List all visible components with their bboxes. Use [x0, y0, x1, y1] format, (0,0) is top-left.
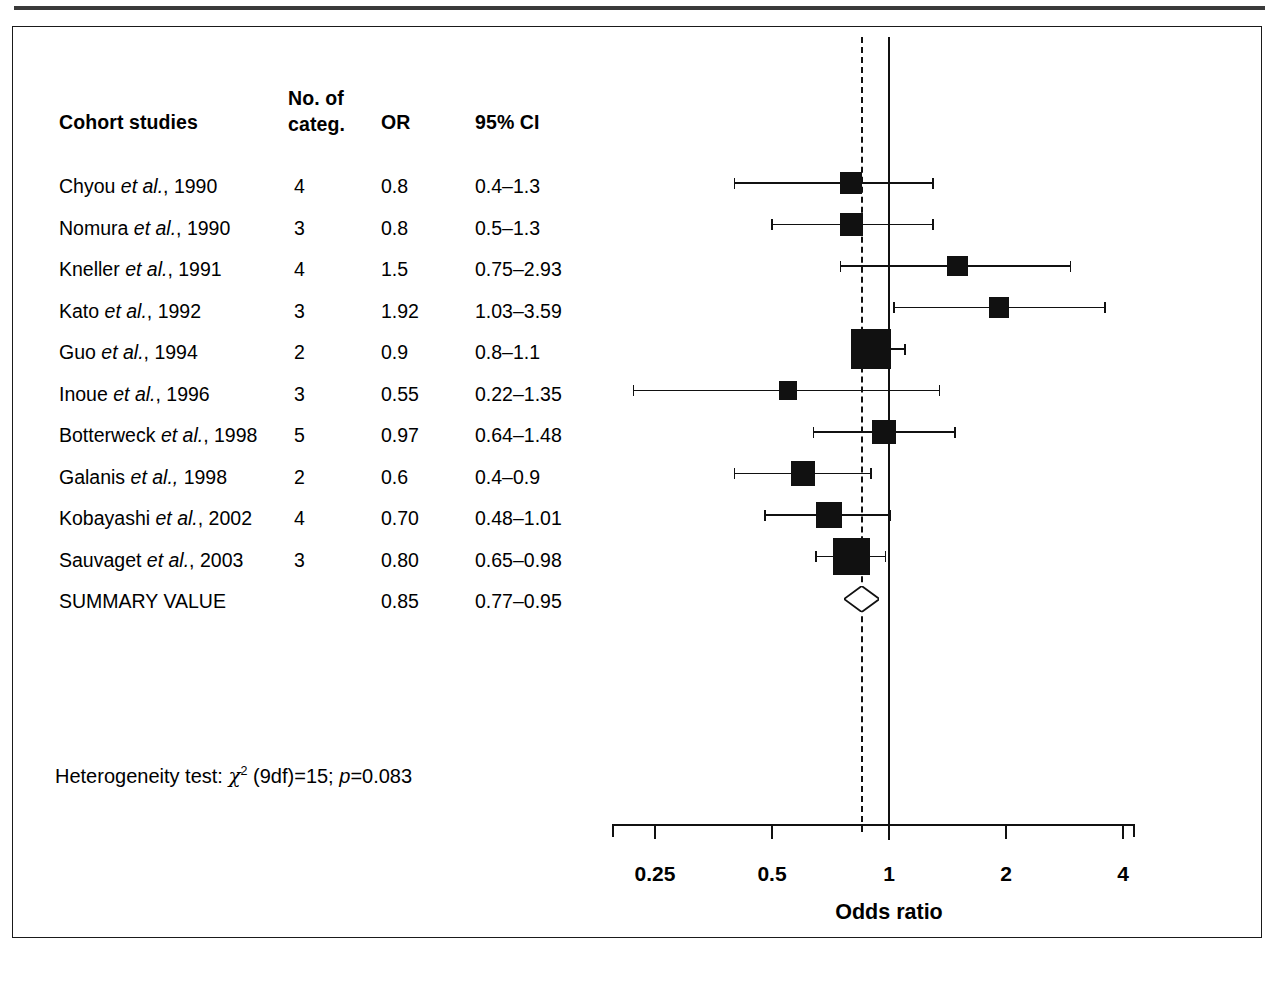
- ci-cap-upper: [885, 551, 887, 562]
- page-top-rule: [14, 6, 1265, 10]
- ci-cap-upper: [890, 510, 892, 521]
- x-axis-line: [613, 824, 1134, 826]
- study-effect-marker: [872, 420, 895, 443]
- ci-cap-lower: [734, 468, 736, 479]
- study-effect-marker: [840, 213, 863, 236]
- ci-cap-lower: [813, 427, 815, 438]
- ci-cap-upper: [870, 468, 872, 479]
- ci-cap-lower: [893, 302, 895, 313]
- study-effect-marker: [816, 502, 841, 527]
- ci-cap-upper: [932, 219, 934, 230]
- x-axis-tick: [1005, 824, 1007, 839]
- x-axis-title: Odds ratio: [835, 900, 943, 925]
- x-axis-right-end: [1133, 824, 1135, 837]
- x-axis-tick: [888, 824, 890, 839]
- x-axis-left-end: [612, 824, 614, 837]
- ci-cap-lower: [734, 178, 736, 189]
- ci-cap-lower: [764, 510, 766, 521]
- x-axis-tick-label: 0.5: [757, 862, 786, 886]
- x-axis-tick: [1122, 824, 1124, 839]
- x-axis-tick-label: 1: [883, 862, 895, 886]
- x-axis-tick: [654, 824, 656, 839]
- ci-cap-lower: [840, 261, 842, 272]
- study-effect-marker: [947, 256, 968, 277]
- ci-cap-upper: [939, 385, 941, 396]
- ci-cap-upper: [1104, 302, 1106, 313]
- ci-cap-lower: [771, 219, 773, 230]
- study-effect-marker: [833, 538, 869, 574]
- ci-cap-upper: [932, 178, 934, 189]
- study-effect-marker: [791, 461, 815, 485]
- summary-diamond: [844, 586, 879, 612]
- ci-cap-upper: [1070, 261, 1072, 272]
- x-axis-tick: [771, 824, 773, 839]
- x-axis-tick-label: 2: [1000, 862, 1012, 886]
- x-axis-tick-label: 4: [1117, 862, 1129, 886]
- forest-plot: 0.250.5124Odds ratio: [13, 27, 1261, 937]
- summary-reference-line: [861, 37, 863, 832]
- ci-cap-lower: [633, 385, 635, 396]
- study-effect-marker: [989, 297, 1010, 318]
- ci-cap-upper: [954, 427, 956, 438]
- confidence-interval-line: [734, 182, 933, 184]
- figure-frame: Cohort studies No. of categ. OR 95% CI C…: [12, 26, 1262, 938]
- study-effect-marker: [851, 329, 891, 369]
- study-effect-marker: [840, 172, 862, 194]
- figure-page: Cohort studies No. of categ. OR 95% CI C…: [0, 0, 1279, 997]
- x-axis-tick-label: 0.25: [635, 862, 676, 886]
- study-effect-marker: [779, 381, 798, 400]
- ci-cap-lower: [815, 551, 817, 562]
- ci-cap-upper: [904, 344, 906, 355]
